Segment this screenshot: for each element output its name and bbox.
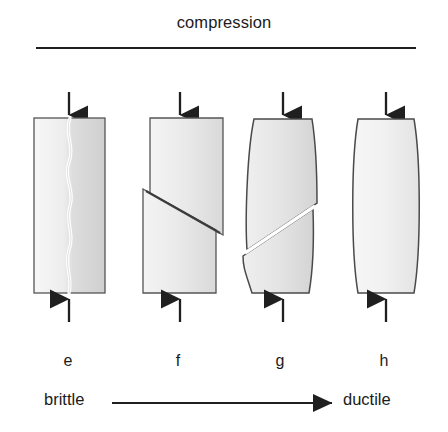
figure-title: compression [0,13,448,32]
specimen-label-e: e [48,352,88,370]
title-divider [36,47,416,49]
scale-arrow [110,390,346,420]
specimen-stage [0,60,448,340]
specimen-h [353,92,420,322]
specimen-e [34,92,105,322]
compression-failure-figure: compression [0,0,448,432]
specimen-f [143,92,223,322]
specimen-label-g: g [260,352,300,370]
specimen-label-f: f [158,352,198,370]
specimen-g [243,92,317,322]
specimen-body-h [353,119,420,293]
scale-label-brittle: brittle [44,390,84,409]
brittle-ductile-scale: brittle ductile [0,390,448,424]
specimen-label-h: h [364,352,404,370]
scale-label-ductile: ductile [343,390,391,409]
specimen-labels: e f g h [0,352,448,380]
